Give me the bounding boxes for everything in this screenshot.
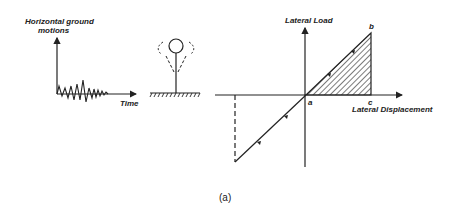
load-displacement-panel: Lateral Load Lateral Displacement a b c <box>215 16 433 167</box>
figure-caption: (a) <box>219 192 231 203</box>
ground-motion-xlabel: Time <box>120 99 139 108</box>
ground-motion-wave <box>57 80 108 102</box>
sway-left-column <box>166 56 174 72</box>
arrow-marker-1 <box>257 141 261 145</box>
sway-left-mass <box>158 42 163 55</box>
load-axis-label: Lateral Load <box>285 16 334 25</box>
point-c-label: c <box>368 98 373 107</box>
ground-motion-ylabel-line1: Horizontal ground <box>25 17 95 26</box>
sway-right-mass <box>189 42 194 55</box>
structure-panel <box>150 39 200 97</box>
loading-line-negative <box>235 95 306 162</box>
figure-canvas: Horizontal ground motions Time <box>0 0 460 219</box>
ground-motion-ylabel-line2: motions <box>38 26 70 35</box>
sway-right-column <box>178 56 186 72</box>
point-b-label: b <box>369 22 374 31</box>
energy-triangle <box>306 33 371 95</box>
mass-circle <box>169 39 183 53</box>
ground-motion-panel: Horizontal ground motions Time <box>25 17 139 108</box>
point-a-label: a <box>308 98 313 107</box>
displacement-axis-label: Lateral Displacement <box>352 105 433 114</box>
